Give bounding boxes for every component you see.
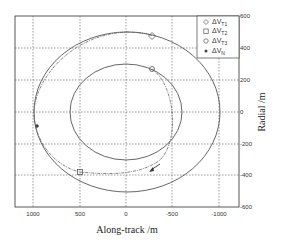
y-axis-label: Radial /m: [256, 92, 267, 131]
y-tick-labels: 600 400 200 0 -200 -400 -600: [240, 13, 253, 210]
svg-text:500: 500: [75, 211, 86, 217]
marker-dvn-star: [35, 124, 39, 128]
svg-text:0: 0: [124, 211, 128, 217]
svg-text:0: 0: [240, 109, 244, 115]
legend: ΔVT1 ΔVT2 ΔVT3 ΔVN: [197, 16, 239, 58]
legend-star-icon: [205, 50, 208, 53]
svg-text:-600: -600: [240, 204, 253, 210]
svg-text:1000: 1000: [26, 211, 40, 217]
svg-text:-1000: -1000: [211, 211, 227, 217]
x-tick-labels: 1000 500 0 -500 -1000: [26, 211, 227, 217]
svg-text:-500: -500: [166, 211, 179, 217]
svg-text:400: 400: [240, 45, 251, 51]
svg-text:-400: -400: [240, 172, 253, 178]
svg-text:-200: -200: [240, 141, 253, 147]
x-axis-label: Along-track /m: [96, 224, 158, 235]
chart: ΔVT1 ΔVT2 ΔVT3 ΔVN 1000 500 0 -500 -1000…: [0, 0, 281, 243]
svg-text:600: 600: [240, 13, 251, 19]
svg-text:200: 200: [240, 77, 251, 83]
